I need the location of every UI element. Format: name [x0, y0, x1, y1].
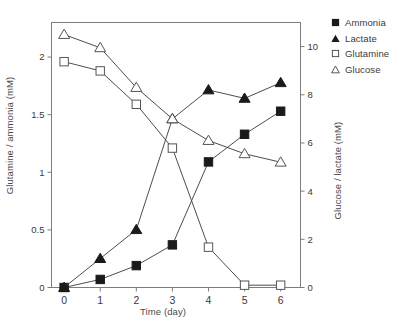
- y-axis-left-title-text: Glutamine / ammonia (mM): [5, 76, 16, 193]
- y-axis-left-tick: 0.5: [31, 224, 44, 235]
- legend-item-glutamine: Glutamine: [331, 47, 389, 60]
- data-point-filled-square: [276, 107, 284, 115]
- y-axis-left-tick: 2: [39, 51, 44, 62]
- data-point-filled-square: [132, 261, 140, 269]
- data-point-filled-square: [204, 158, 212, 166]
- data-point-open-square: [96, 67, 104, 75]
- y-axis-right-tick: 2: [308, 234, 313, 245]
- legend-label: Glucose: [345, 64, 381, 75]
- legend-label: Ammonia: [345, 17, 386, 28]
- data-point-filled-triangle: [131, 224, 142, 233]
- data-point-open-square: [240, 281, 248, 289]
- legend-item-glucose: Glucose: [331, 63, 389, 76]
- legend-marker-open-triangle-icon: [331, 65, 340, 74]
- legend-item-lactate: Lactate: [331, 32, 389, 45]
- data-point-open-triangle: [95, 42, 106, 51]
- legend-label: Lactate: [345, 33, 377, 44]
- y-axis-left-title: Glutamine / ammonia (mM): [2, 0, 18, 270]
- x-axis-tick: 5: [242, 294, 248, 306]
- y-axis-right-title: Glucose / lactate (mM): [330, 55, 346, 285]
- legend-marker-open-square-icon: [331, 49, 340, 58]
- data-point-filled-triangle: [95, 253, 106, 262]
- legend-item-ammonia: Ammonia: [331, 16, 389, 29]
- x-axis-tick: 1: [97, 294, 103, 306]
- data-point-open-triangle: [239, 148, 250, 157]
- series-lactate: [59, 77, 287, 291]
- data-point-filled-square: [240, 130, 248, 138]
- chart-legend: AmmoniaLactateGlutamineGlucose: [331, 16, 389, 76]
- legend-label: Glutamine: [345, 48, 389, 59]
- data-point-filled-square: [96, 275, 104, 283]
- x-axis-title: Time (day): [140, 306, 186, 317]
- data-point-open-square: [60, 57, 68, 65]
- y-axis-right-tick: 6: [308, 137, 313, 148]
- chart-figure: 00.511.5202468100123456 Glutamine / ammo…: [0, 0, 412, 331]
- data-point-open-square: [132, 100, 140, 108]
- x-axis-tick: 4: [206, 294, 212, 306]
- data-point-open-triangle: [203, 135, 214, 144]
- data-point-open-triangle: [59, 29, 70, 38]
- y-axis-right-tick: 10: [308, 41, 319, 52]
- legend-marker-filled-square-icon: [331, 18, 340, 27]
- y-axis-right-tick: 4: [308, 186, 313, 197]
- x-axis-tick: 0: [61, 294, 67, 306]
- x-axis-tick: 2: [133, 294, 139, 306]
- series-glutamine: [60, 57, 285, 289]
- y-axis-right-title-text: Glucose / lactate (mM): [333, 121, 344, 219]
- data-point-filled-square: [168, 241, 176, 249]
- y-axis-left-tick: 1.5: [31, 109, 44, 120]
- x-axis-tick: 6: [278, 294, 284, 306]
- data-point-open-square: [168, 144, 176, 152]
- y-axis-left-tick: 1: [39, 167, 44, 178]
- x-axis-tick: 3: [169, 294, 175, 306]
- y-axis-left-tick: 0: [39, 282, 44, 293]
- y-axis-right-tick: 8: [308, 89, 313, 100]
- legend-marker-filled-triangle-icon: [331, 34, 340, 43]
- data-point-filled-triangle: [275, 77, 286, 86]
- y-axis-right-tick: 0: [308, 282, 313, 293]
- data-point-open-square: [204, 243, 212, 251]
- data-point-filled-triangle: [203, 85, 214, 94]
- data-point-open-square: [276, 281, 284, 289]
